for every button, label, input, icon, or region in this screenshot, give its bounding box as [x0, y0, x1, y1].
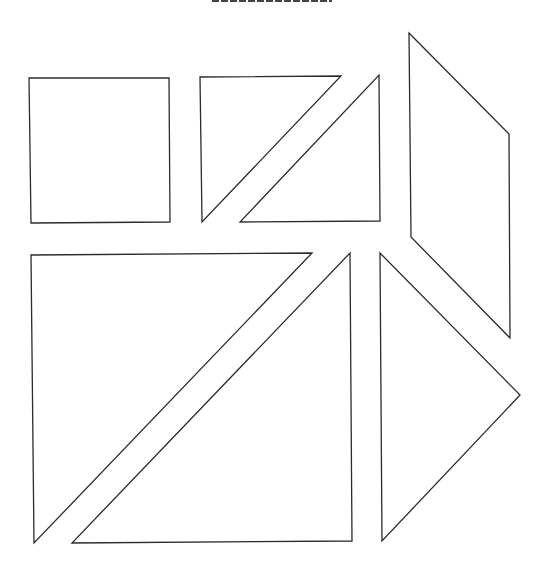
tangram-canvas: [0, 0, 550, 568]
parallelogram-piece: [409, 33, 510, 338]
square-piece: [29, 78, 170, 223]
